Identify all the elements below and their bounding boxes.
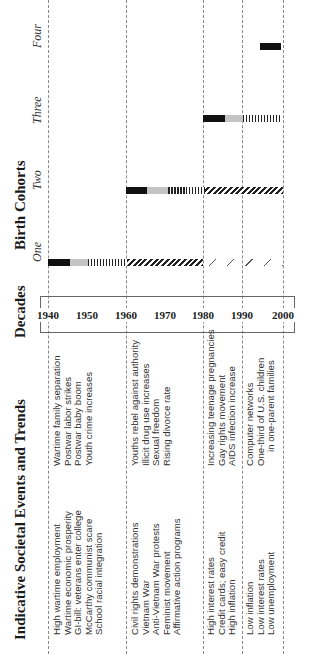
event-item: High wartime employment: [52, 510, 63, 635]
decade-1940: 1940: [32, 308, 64, 322]
events-1980s-social: Increasing teenage pregnancies Gay right…: [206, 329, 238, 466]
events-title: Indicative Societal Events and Trends: [12, 399, 29, 640]
event-item: School racial integration: [94, 510, 105, 635]
event-item: Increasing teenage pregnancies: [206, 329, 217, 466]
event-item: Low inflation: [245, 552, 256, 635]
event-item: AIDS infection increase: [227, 329, 238, 466]
birth-cohorts-header: Birth Cohorts: [12, 160, 29, 250]
cohort-one-segment-vertical-stripes: [88, 259, 127, 266]
cohort-one-segment-black: [48, 259, 70, 266]
decade-1990: 1990: [226, 308, 258, 322]
decades-header: Decades: [12, 286, 29, 339]
cohort-one-segment-diagonal: [127, 259, 203, 266]
cohort-four-segment-black: [260, 43, 281, 50]
event-item: Youths rebel against authority: [130, 340, 141, 466]
cohort-two-segment-black: [126, 187, 147, 194]
events-1990s-economic: Low inflation Low interest rates Low une…: [245, 552, 277, 635]
cohort-two-segment-diagonal: [205, 187, 283, 194]
events-1960s-social: Youths rebel against authority Illicit d…: [130, 340, 172, 466]
cohort-three-segment-black: [203, 115, 225, 122]
event-item: High inflation: [227, 532, 238, 635]
event-item: Low unemployment: [266, 552, 277, 635]
decade-1960: 1960: [110, 308, 142, 322]
events-1960s-economic: Civil rights demonstrations Vietnam War …: [130, 518, 183, 635]
decade-1950: 1950: [71, 308, 103, 322]
event-item: High interest rates: [206, 532, 217, 635]
decade-1980: 1980: [187, 308, 219, 322]
cohort-three-segment-vertical-stripes: [243, 115, 282, 122]
cohort-two-segment-gray: [147, 187, 168, 194]
cohort-two-segment-vertical-stripes: [168, 187, 205, 194]
cohort-three-segment-gray: [225, 115, 243, 122]
event-item: Computer networks: [245, 358, 256, 466]
cohort-one-segment-sparse-diagonal: [203, 259, 283, 266]
birth-cohorts-header-text: Birth Cohorts: [12, 160, 28, 250]
events-1940s-social: Wartime family separation Postwar labor …: [52, 355, 94, 466]
event-item: Wartime family separation: [52, 355, 63, 466]
events-1990s-social: Computer networks One-third of U.S. chil…: [245, 358, 277, 466]
diagram-stage: Indicative Societal Events and Trends De…: [0, 0, 316, 654]
decade-1970: 1970: [149, 308, 181, 322]
event-item: Affirmative action programs: [172, 518, 183, 635]
event-item: Rising divorce rate: [162, 340, 173, 466]
event-item: Youth crime increases: [84, 355, 95, 466]
cohort-one-segment-gray: [70, 259, 88, 266]
event-item: Civil rights demonstrations: [130, 518, 141, 635]
cohort-label-two: Two: [30, 170, 45, 190]
decade-2000: 2000: [267, 308, 299, 322]
events-1940s-economic: High wartime employment Wartime economic…: [52, 510, 105, 635]
cohort-label-four: Four: [30, 24, 45, 48]
events-1980s-economic: High interest rates Credit cards; easy c…: [206, 532, 238, 635]
event-item: in one-parent families: [266, 358, 277, 466]
cohort-label-three: Three: [30, 96, 45, 124]
cohort-label-one: One: [30, 242, 45, 262]
